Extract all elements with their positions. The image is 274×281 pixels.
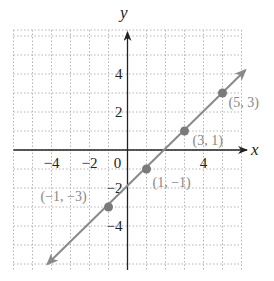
x-axis-label: x	[250, 140, 259, 159]
x-tick-label: −4	[44, 155, 60, 171]
data-point	[218, 89, 227, 98]
y-tick-label: 2	[115, 104, 123, 120]
coordinate-plane: xy −4−20442−2−4 (−1, −3)(1, −1)(3, 1)(5,…	[0, 0, 274, 281]
y-axis-label: y	[118, 3, 128, 22]
data-series: (−1, −3)(1, −1)(3, 1)(5, 3)	[41, 70, 260, 264]
x-tick-label: 4	[200, 155, 208, 171]
data-point	[142, 165, 151, 174]
point-label: (3, 1)	[193, 133, 224, 149]
y-tick-label: −4	[107, 218, 123, 234]
x-tick-label: −2	[82, 155, 98, 171]
point-label: (5, 3)	[229, 95, 260, 111]
x-tick-label: 0	[114, 155, 122, 171]
data-point	[104, 203, 113, 212]
point-label: (−1, −3)	[41, 189, 87, 205]
y-tick-label: 4	[115, 66, 123, 82]
point-label: (1, −1)	[153, 175, 192, 191]
data-point	[180, 127, 189, 136]
